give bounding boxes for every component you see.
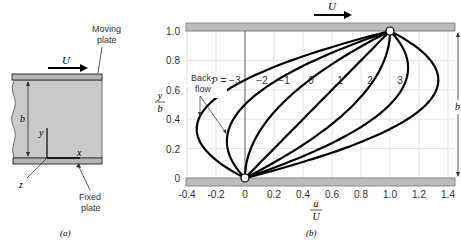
dim-arrow-icon [456,32,460,37]
arrow-head-icon [80,64,88,72]
x-tick-label: 0.6 [325,189,339,200]
figure: U Moving plate b y x z Fixed plate (a) [0,0,461,244]
moving-plate-label-1: Moving [92,24,121,34]
top-node [386,27,394,35]
fluid-region [12,80,102,158]
x-tick-label: -0.2 [207,189,225,200]
curve-label: −1 [278,75,290,86]
curve-label: 2 [367,75,373,86]
x-tick-label: -0.4 [178,189,196,200]
x-tick-label: 1.4 [441,189,455,200]
velocity-profile-curve [227,31,390,178]
curve-label: 0 [308,75,314,86]
velocity-label: U [62,54,71,66]
y-tick-label: 0.6 [166,85,180,96]
moving-plate [12,74,102,80]
y-tick-label: 0.8 [166,55,180,66]
x-tick-label: 0.4 [296,189,310,200]
curve-label: 1 [337,75,343,86]
gap-label: b [455,101,460,112]
x-tick-label: 1.2 [412,189,426,200]
y-tick-labels: 00.20.40.60.81.0 [166,26,180,184]
fixed-plate [13,158,102,164]
backflow-label-2: flow [195,84,212,94]
bottom-plate [186,178,455,186]
moving-plate-label-2: plate [97,35,117,45]
leader-line [98,47,102,73]
axis-x-label: x [76,147,82,158]
curve-label: P = −3 [211,75,241,86]
x-label-num: u [314,198,319,209]
y-label-num: y [157,90,163,101]
velocity-profile-curve [245,31,408,178]
dim-arrow-icon [456,172,460,177]
panel-b: U b -0.4-0.200.20.40.60.81.01.21.4 00.20… [155,0,461,238]
curve-label: −2 [256,75,268,86]
leader-line [78,165,90,190]
y-tick-label: 0.4 [166,114,180,125]
arrow-head-icon [344,11,352,19]
axis-z-label: z [18,179,23,190]
panel-a: U Moving plate b y x z Fixed plate (a) [12,24,121,238]
x-tick-label: 0 [242,189,248,200]
x-tick-label: 1.0 [383,189,397,200]
fixed-plate-label-1: Fixed [79,192,101,202]
x-tick-label: 0.8 [354,189,368,200]
x-label-den: U [312,211,320,222]
velocity-profiles [197,31,439,178]
y-tick-label: 1.0 [166,26,180,37]
caption-b: (b) [306,228,317,238]
velocity-label: U [328,0,337,12]
gap-label: b [20,113,25,124]
curve-label: 3 [397,75,403,86]
bottom-node [241,174,249,182]
axis-y-label: y [38,127,44,138]
top-plate [186,23,455,31]
velocity-profile-curve [245,31,390,178]
y-label-den: b [158,103,163,114]
fixed-plate-label-2: plate [81,203,101,213]
y-tick-label: 0 [174,173,180,184]
caption-a: (a) [60,228,71,238]
x-tick-label: 0.2 [267,189,281,200]
y-tick-label: 0.2 [166,144,180,155]
